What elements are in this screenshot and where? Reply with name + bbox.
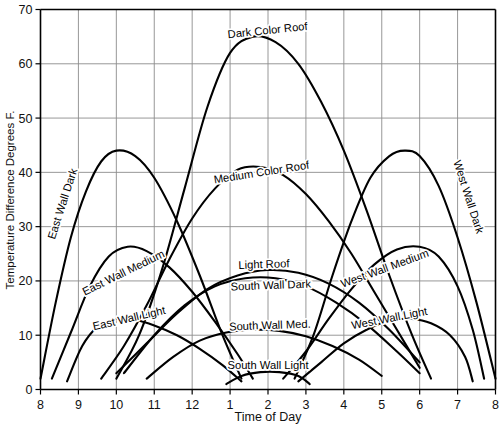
y-tick-label: 50 [19,112,33,126]
x-tick-label: 3 [302,398,309,412]
x-tick-label: 8 [492,398,499,412]
y-axis-title: Temperature Difference Degrees F. [4,111,16,290]
y-tick-label: 70 [19,3,33,17]
chart-figure: Dark Color RoofMedium Color RoofLight Ro… [0,0,503,429]
x-tick-label: 5 [378,398,385,412]
curve-label-south-wall-light: South Wall Light [227,359,309,371]
y-tick-label: 40 [19,166,33,180]
y-tick-label: 20 [19,274,33,288]
y-tick-label: 30 [19,220,33,234]
x-tick-label: 4 [340,398,347,412]
x-tick-label: 1 [227,398,234,412]
x-axis-title: Time of Day [235,410,303,424]
x-tick-label: 12 [185,398,199,412]
x-tick-label: 8 [37,398,44,412]
x-tick-label: 7 [454,398,461,412]
x-tick-label: 6 [416,398,423,412]
y-tick-label: 60 [19,57,33,71]
x-tick-label: 10 [109,398,123,412]
curve-label-light-roof: Light Roof [238,257,290,271]
y-tick-label: 10 [19,329,33,343]
y-tick-label: 0 [26,383,33,397]
x-tick-label: 9 [75,398,82,412]
chart-canvas: Dark Color RoofMedium Color RoofLight Ro… [0,0,503,429]
x-tick-label: 11 [148,398,161,412]
